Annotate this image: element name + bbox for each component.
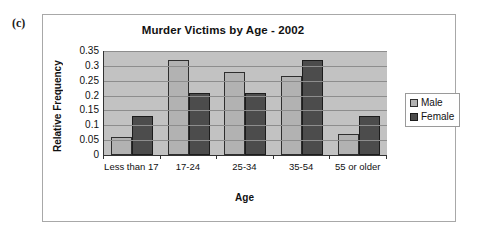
bar-male	[338, 134, 359, 155]
y-axis-tick-label: 0	[93, 150, 99, 160]
x-axis-title: Age	[103, 192, 386, 203]
figure-label: (c)	[12, 16, 25, 31]
y-axis-tick-label: 0.15	[80, 105, 99, 115]
y-axis-tick-label: 0.1	[85, 120, 99, 130]
y-axis-tick-label: 0.05	[80, 135, 99, 145]
gridline	[104, 96, 387, 97]
x-axis-tick-mark	[329, 155, 330, 159]
legend-swatch-icon	[410, 99, 418, 107]
x-axis-category-label: 35-54	[273, 161, 330, 172]
gridline	[104, 140, 387, 141]
x-axis-category-label: 25-34	[216, 161, 273, 172]
x-axis-tick-marks	[103, 155, 386, 159]
bar-female	[245, 93, 266, 155]
x-axis-category-label: 55 or older	[329, 161, 386, 172]
bar-female	[359, 116, 380, 155]
x-axis-tick-mark	[216, 155, 217, 159]
x-axis-category-label: Less than 17	[103, 161, 160, 172]
chart-frame: Murder Victims by Age - 2002 Relative Fr…	[42, 14, 456, 222]
y-axis-tick-label: 0.25	[80, 76, 99, 86]
legend-label: Female	[421, 112, 454, 122]
y-axis-title: Relative Frequency	[51, 53, 65, 159]
gridline	[104, 51, 387, 52]
bar-male	[224, 72, 245, 155]
x-axis-tick-mark	[160, 155, 161, 159]
bar-female	[189, 93, 210, 155]
x-axis-category-labels: Less than 1717-2425-3435-5455 or older	[103, 161, 386, 172]
legend-item-female: Female	[410, 112, 454, 122]
bar-female	[132, 116, 153, 155]
bar-male	[281, 76, 302, 155]
chart-legend: MaleFemale	[405, 93, 460, 127]
y-axis-tick-label: 0.2	[85, 91, 99, 101]
x-axis-tick-mark	[103, 155, 104, 159]
chart-title: Murder Victims by Age - 2002	[43, 24, 403, 36]
gridline	[104, 110, 387, 111]
gridline	[104, 66, 387, 67]
legend-swatch-icon	[410, 113, 418, 121]
x-axis-tick-mark	[273, 155, 274, 159]
x-axis-category-label: 17-24	[160, 161, 217, 172]
plot-area	[103, 51, 387, 155]
y-axis-tick-label: 0.3	[85, 61, 99, 71]
x-axis-tick-mark	[386, 155, 387, 159]
y-axis-tick-labels: 00.050.10.150.20.250.30.35	[65, 51, 101, 155]
legend-label: Male	[421, 98, 443, 108]
gridline	[104, 81, 387, 82]
gridline	[104, 125, 387, 126]
legend-item-male: Male	[410, 98, 454, 108]
y-axis-tick-label: 0.35	[80, 46, 99, 56]
